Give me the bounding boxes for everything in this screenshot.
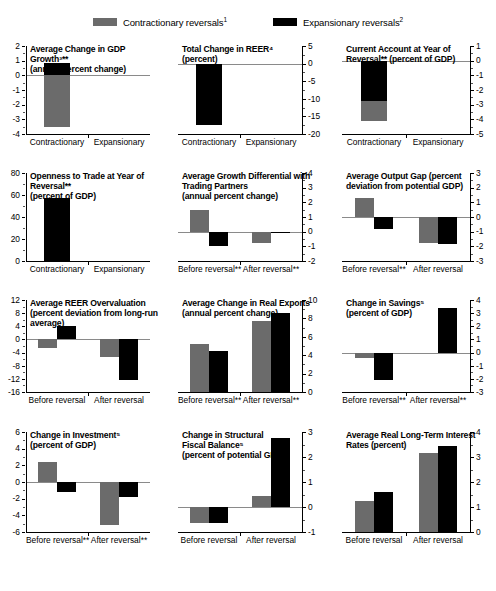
- y-tick-label: 2: [476, 478, 496, 486]
- x-axis-label-gdp-growth-0: Contractionary: [26, 138, 88, 147]
- x-axis-label-change-in-savings-1: After reversal**: [406, 396, 470, 405]
- y-tick-label: -5: [476, 130, 496, 138]
- y-minor-tick: [303, 328, 305, 329]
- y-tick-label: -3: [476, 388, 496, 396]
- y-minor-tick: [23, 250, 25, 251]
- y-tick: [303, 134, 306, 135]
- y-minor-tick: [23, 346, 25, 347]
- bar-real-long-term-interest-rates-contractionary-1: [419, 453, 438, 532]
- y-tick: [303, 202, 306, 203]
- legend-text-contractionary: Contractionary reversals: [123, 17, 224, 28]
- chart-title-growth-differential: Average Growth Differential with Trading…: [182, 171, 316, 202]
- y-minor-tick: [303, 520, 305, 521]
- y-tick-label: 1: [0, 56, 20, 64]
- y-tick-label: 1: [476, 198, 496, 206]
- x-axis-label-real-exports-0: Before reversal**: [178, 396, 240, 405]
- y-axis-line: [26, 432, 27, 533]
- y-tick-label: 0: [0, 478, 20, 486]
- y-tick: [471, 134, 474, 135]
- y-tick-label: 6: [308, 333, 330, 341]
- y-tick: [303, 217, 306, 218]
- y-tick-label: 0: [308, 503, 330, 511]
- bar-output-gap-contractionary-1: [419, 217, 438, 243]
- y-tick: [303, 81, 306, 82]
- y-tick: [471, 326, 474, 327]
- y-minor-tick: [471, 470, 473, 471]
- bar-real-long-term-interest-rates-contractionary-0: [355, 501, 374, 532]
- y-minor-tick: [23, 524, 25, 525]
- bar-reer-overvaluation-expansionary-1: [119, 339, 138, 380]
- legend-label-expansionary: Expansionary reversals2: [303, 16, 403, 28]
- y-tick: [303, 532, 306, 533]
- x-axis-label-real-long-term-interest-rates-0: Before reversal: [342, 536, 406, 545]
- bar-growth-differential-expansionary-1: [271, 232, 290, 233]
- y-tick-label: 1: [476, 335, 496, 343]
- bar-reer-overvaluation-contractionary-0: [38, 339, 57, 348]
- legend-swatch-contractionary: [93, 18, 117, 26]
- y-tick-label: -1: [0, 86, 20, 94]
- x-axis-label-change-in-investment-1: After reversal**: [88, 536, 150, 545]
- legend-item-contractionary: Contractionary reversals1: [93, 16, 227, 28]
- y-tick-label: -16: [0, 388, 20, 396]
- y-tick-label: 0: [308, 388, 330, 396]
- y-tick-label: 2: [0, 461, 20, 469]
- figure-root: Contractionary reversals1 Expansionary r…: [0, 0, 496, 591]
- bar-structural-fiscal-balance-contractionary-0: [190, 507, 209, 523]
- chart-grid: Average Change in GDP Growth³** (annual …: [0, 34, 496, 591]
- x-axis-label-current-account-1: Expansionary: [406, 138, 470, 147]
- chart-title-current-account: Current Account at Year of Reversal** (p…: [346, 44, 484, 64]
- y-minor-tick: [303, 224, 305, 225]
- y-tick-label: 6: [0, 428, 20, 436]
- y-axis-line: [26, 300, 27, 393]
- y-minor-tick: [303, 364, 305, 365]
- y-tick-label: -2: [476, 242, 496, 250]
- y-minor-tick: [471, 112, 473, 113]
- x-axis-label-openness-to-trade-0: Contractionary: [26, 265, 88, 274]
- y-tick: [471, 246, 474, 247]
- chart-panel-structural-fiscal-balance: Change in Structural Fiscal Balance⁵ (pe…: [164, 418, 328, 558]
- x-axis-label-structural-fiscal-balance-1: After reversal: [240, 536, 302, 545]
- y-tick-label: -1: [476, 362, 496, 370]
- bar-change-in-investment-expansionary-0: [57, 482, 76, 492]
- y-tick: [303, 507, 306, 508]
- y-tick: [471, 119, 474, 120]
- y-tick: [22, 195, 25, 196]
- bar-growth-differential-expansionary-0: [209, 232, 228, 247]
- y-tick-label: 0: [0, 335, 20, 343]
- y-minor-tick: [303, 470, 305, 471]
- bar-output-gap-contractionary-0: [355, 198, 374, 217]
- y-minor-tick: [303, 125, 305, 126]
- bar-change-in-investment-contractionary-1: [100, 482, 119, 525]
- y-tick-label: 2: [476, 322, 496, 330]
- chart-legend: Contractionary reversals1 Expansionary r…: [0, 14, 496, 30]
- y-tick: [22, 75, 25, 76]
- y-tick-label: -3: [476, 100, 496, 108]
- y-tick: [303, 99, 306, 100]
- y-minor-tick: [23, 474, 25, 475]
- y-minor-tick: [23, 83, 25, 84]
- y-tick: [471, 339, 474, 340]
- y-tick: [22, 105, 25, 106]
- y-tick: [22, 532, 25, 533]
- x-axis-label-output-gap-0: Before reversal**: [342, 265, 406, 274]
- y-tick: [471, 353, 474, 354]
- y-tick-label: -8: [0, 362, 20, 370]
- bar-real-exports-expansionary-0: [209, 351, 228, 392]
- y-tick: [471, 75, 474, 76]
- y-tick: [22, 261, 25, 262]
- y-tick-label: 8: [0, 309, 20, 317]
- y-minor-tick: [23, 320, 25, 321]
- x-axis-label-openness-to-trade-1: Expansionary: [88, 265, 150, 274]
- chart-panel-growth-differential: Average Growth Differential with Trading…: [164, 161, 328, 288]
- y-tick-label: 0: [0, 257, 20, 265]
- x-axis-label-change-in-investment-0: Before reversal**: [26, 536, 88, 545]
- y-minor-tick: [471, 495, 473, 496]
- chart-title-real-long-term-interest-rates: Average Real Long-Term Interest Rates (p…: [346, 430, 484, 450]
- x-axis-label-gdp-growth-1: Expansionary: [88, 138, 150, 147]
- y-minor-tick: [303, 254, 305, 255]
- y-tick: [303, 261, 306, 262]
- bar-change-in-savings-contractionary-0: [355, 353, 374, 359]
- y-tick-label: -4: [0, 348, 20, 356]
- y-minor-tick: [23, 53, 25, 54]
- y-tick-label: 40: [0, 213, 20, 221]
